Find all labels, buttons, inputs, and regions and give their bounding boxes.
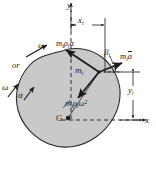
normal-inertia-vector-label: miρiω2: [65, 99, 87, 109]
beta-sub: i: [108, 52, 110, 58]
y-axis-label: y: [67, 1, 71, 10]
centroid-label: G: [56, 114, 63, 123]
dynamics-figure: y x xi yi miρiα mia βi mi miρiω2 G ω or …: [0, 0, 156, 171]
yi-sub: i: [132, 90, 134, 96]
omega-top-label: ω: [38, 41, 44, 50]
mass-element-label: mi: [75, 66, 83, 76]
omega-bottom-label: ω: [2, 83, 8, 92]
or-label: or: [12, 61, 20, 70]
beta-leader-line: [110, 56, 113, 64]
xi-dimension-label: xi: [78, 16, 84, 26]
mirw2-exp: 2: [84, 99, 87, 105]
alpha-bottom-label: α: [18, 91, 23, 100]
mi-sub: i: [82, 70, 84, 76]
x-axis-label: x: [145, 116, 149, 125]
xi-sub: i: [82, 20, 84, 26]
beta-angle-label: βi: [104, 48, 110, 58]
mass-times-accel-vector-label: mia: [120, 52, 132, 62]
yi-dimension-label: yi: [128, 86, 134, 96]
tangential-inertia-vector-label: miρiα: [56, 39, 74, 49]
centroid-point: [66, 116, 70, 120]
mia-abar: a: [128, 52, 132, 61]
mira-alpha: α: [69, 38, 73, 48]
